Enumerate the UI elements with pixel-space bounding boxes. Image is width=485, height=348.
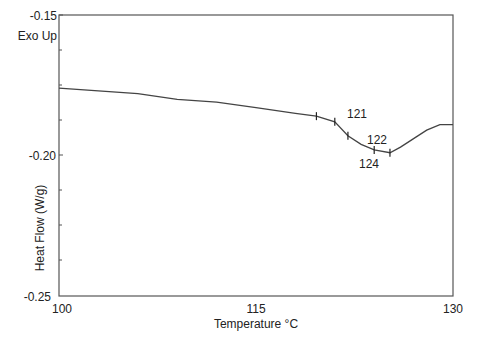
y-tick-label-top: -0.15 (30, 9, 58, 23)
y-tick-label-mid: -0.20 (29, 149, 57, 163)
x-tick-label-mid: 115 (246, 302, 265, 316)
x-tick-label-left: 100 (52, 302, 72, 316)
marker-label-122: 122 (367, 133, 387, 147)
y-axis-title: Heat Flow (W/g) (33, 185, 47, 272)
x-axis-title: Temperature °C (214, 317, 298, 331)
dsc-chart: -0.15 Exo Up -0.20 -0.25 100 115 130 Tem… (0, 0, 485, 348)
marker-label-124: 124 (359, 157, 379, 171)
marker-label-121: 121 (347, 107, 367, 121)
heat-flow-curve (59, 88, 453, 153)
y-tick-label-bottom: -0.25 (24, 290, 52, 304)
plot-frame (59, 15, 453, 296)
x-tick-label-right: 130 (443, 302, 463, 316)
exo-up-annotation: Exo Up (18, 29, 58, 43)
